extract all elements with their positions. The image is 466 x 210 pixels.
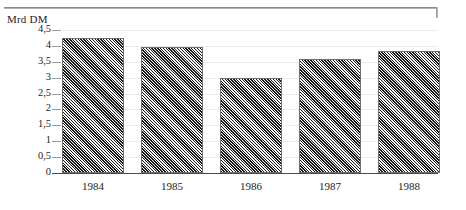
y-tick-mark [52, 46, 61, 47]
gridline [62, 30, 438, 31]
y-tick-label: 4 [46, 40, 51, 50]
bar-1985 [141, 47, 203, 173]
y-tick-label: 3,5 [38, 56, 51, 66]
bar-1987 [299, 59, 361, 173]
x-tick-label: 1988 [378, 180, 440, 192]
y-tick-mark [52, 125, 61, 126]
y-tick-label: 2,5 [38, 88, 51, 98]
y-tick-mark [52, 30, 61, 31]
bar-1988 [378, 51, 440, 173]
y-tick-mark [52, 78, 61, 79]
y-tick-label: 0,5 [38, 151, 51, 161]
y-tick-label: 0 [46, 167, 51, 177]
x-tick-label: 1986 [220, 180, 282, 192]
y-tick-mark [52, 157, 61, 158]
y-tick-label: 1 [46, 135, 51, 145]
bar-1984 [62, 38, 124, 173]
x-tick-label: 1987 [299, 180, 361, 192]
bar-chart-plot-area: 00,511,522,533,544,5 1984198519861987198… [0, 0, 466, 210]
bar-1986 [220, 78, 282, 173]
y-tick-label: 3 [46, 72, 51, 82]
x-axis-baseline [52, 173, 438, 174]
y-tick-label: 2 [46, 103, 51, 113]
x-tick-label: 1985 [141, 180, 203, 192]
y-tick-label: 4,5 [38, 24, 51, 34]
y-tick-label: 1,5 [38, 119, 51, 129]
y-tick-mark [52, 109, 61, 110]
y-tick-mark [52, 94, 61, 95]
y-tick-mark [52, 141, 61, 142]
x-tick-label: 1984 [62, 180, 124, 192]
y-tick-mark [52, 62, 61, 63]
